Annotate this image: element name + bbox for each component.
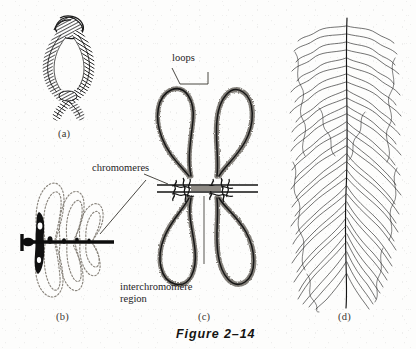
fibril-tangle-contour [293,52,397,312]
panel-d-artwork [290,18,401,312]
callout-interchromomere-region-label: interchromomere region [120,281,192,304]
callout-chromomeres-leader-tip [144,170,172,190]
callout-interchromomere-line1: interchromomere [120,281,192,293]
panel-b-label: (b) [56,311,69,322]
loop-upper-left [158,89,194,176]
panel-d-label: (d) [338,311,351,322]
loop-lower-right [217,198,254,284]
dna-axis [345,18,347,308]
callout-loops-leader [168,62,228,94]
panel-a-artwork [48,16,90,116]
panel-c-artwork [157,89,258,285]
rna-fibrils-right [347,26,401,309]
panel-a-label: (a) [58,128,70,139]
panel-c-label: (c) [198,311,210,322]
loop-upper-right [216,90,252,176]
chromatid-lower-crossing [57,91,80,116]
figure-caption: Figure 2–14 [176,327,255,341]
panel-d-transcription-unit-tracing [285,12,405,312]
callout-interchromomere-line2: region [120,293,192,305]
chromatid-left-arm [48,35,66,96]
lateral-loops-lower [35,244,100,297]
rna-fibrils-left [290,26,346,309]
panel-a-condensed-lampbrush-chromosome [30,10,110,120]
figure-2-14: (a) [0,0,416,349]
chromatid-right-arm [73,35,90,96]
